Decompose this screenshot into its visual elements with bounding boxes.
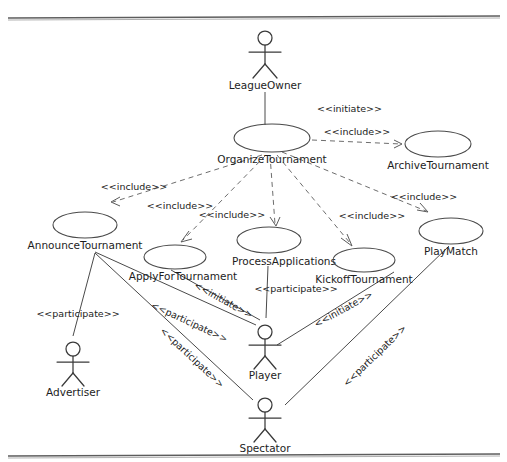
bottom-rule [8, 454, 500, 456]
use-case-label: ArchiveTournament [387, 159, 489, 171]
actor-league-owner[interactable]: LeagueOwner [229, 31, 302, 91]
uml-use-case-diagram: OrganizeTournament ArchiveTournament Ann… [0, 0, 507, 462]
use-case-diagram-page: OrganizeTournament ArchiveTournament Ann… [0, 0, 507, 462]
relation-organize-process [270, 155, 280, 226]
use-case-organize-tournament[interactable]: OrganizeTournament [217, 124, 326, 165]
stereotype-label-participate-advertiser: <<participate>> [36, 308, 119, 319]
relation-organize-archive [312, 140, 402, 148]
actor-label: Advertiser [46, 386, 101, 398]
actor-label: Spectator [240, 442, 292, 454]
use-case-label: AnnounceTournament [28, 239, 143, 251]
actor-label: Player [249, 369, 282, 381]
use-case-archive-tournament[interactable]: ArchiveTournament [387, 131, 489, 171]
use-case-play-match[interactable]: PlayMatch [419, 218, 483, 257]
stereotype-label-include-kickoff: <<include>> [339, 210, 405, 221]
stereotype-label-include-archive: <<include>> [324, 126, 390, 137]
relation-spectator-playmatch [285, 246, 449, 405]
actor-advertiser[interactable]: Advertiser [46, 342, 101, 398]
top-rule [8, 16, 500, 18]
use-case-label: ProcessApplications [232, 255, 336, 267]
use-case-announce-tournament[interactable]: AnnounceTournament [28, 212, 143, 251]
use-case-label: OrganizeTournament [217, 153, 326, 165]
relation-organize-kickoff [277, 155, 352, 246]
actor-player[interactable]: Player [249, 325, 282, 381]
stereotype-label-initiate-player-kickoff: <<initiate>> [312, 288, 374, 329]
actor-label: LeagueOwner [229, 79, 302, 91]
use-case-process-applications[interactable]: ProcessApplications [232, 227, 336, 267]
stereotype-label-initiate-owner: <<initiate>> [317, 103, 382, 114]
stereotype-label-include-playmatch: <<include>> [391, 191, 457, 202]
stereotype-label-participate-player-process: <<participate>> [254, 283, 337, 294]
use-case-apply-for-tournament[interactable]: ApplyForTournament [129, 245, 237, 282]
relation-advertiser-announce [73, 253, 95, 336]
stereotype-label-include-announce: <<include>> [101, 181, 167, 192]
actor-spectator[interactable]: Spectator [240, 398, 292, 454]
stereotype-label-participate-spectator-playmatch: <<participate>> [341, 323, 409, 389]
stereotype-label-include-process: <<include>> [199, 209, 265, 220]
use-case-label: PlayMatch [424, 245, 478, 257]
stereotype-label-initiate-player-apply: <<initiate>> [193, 279, 255, 320]
stereotype-label-participate-player-announce: <<participate>> [149, 299, 229, 344]
use-case-label: ApplyForTournament [129, 270, 237, 282]
